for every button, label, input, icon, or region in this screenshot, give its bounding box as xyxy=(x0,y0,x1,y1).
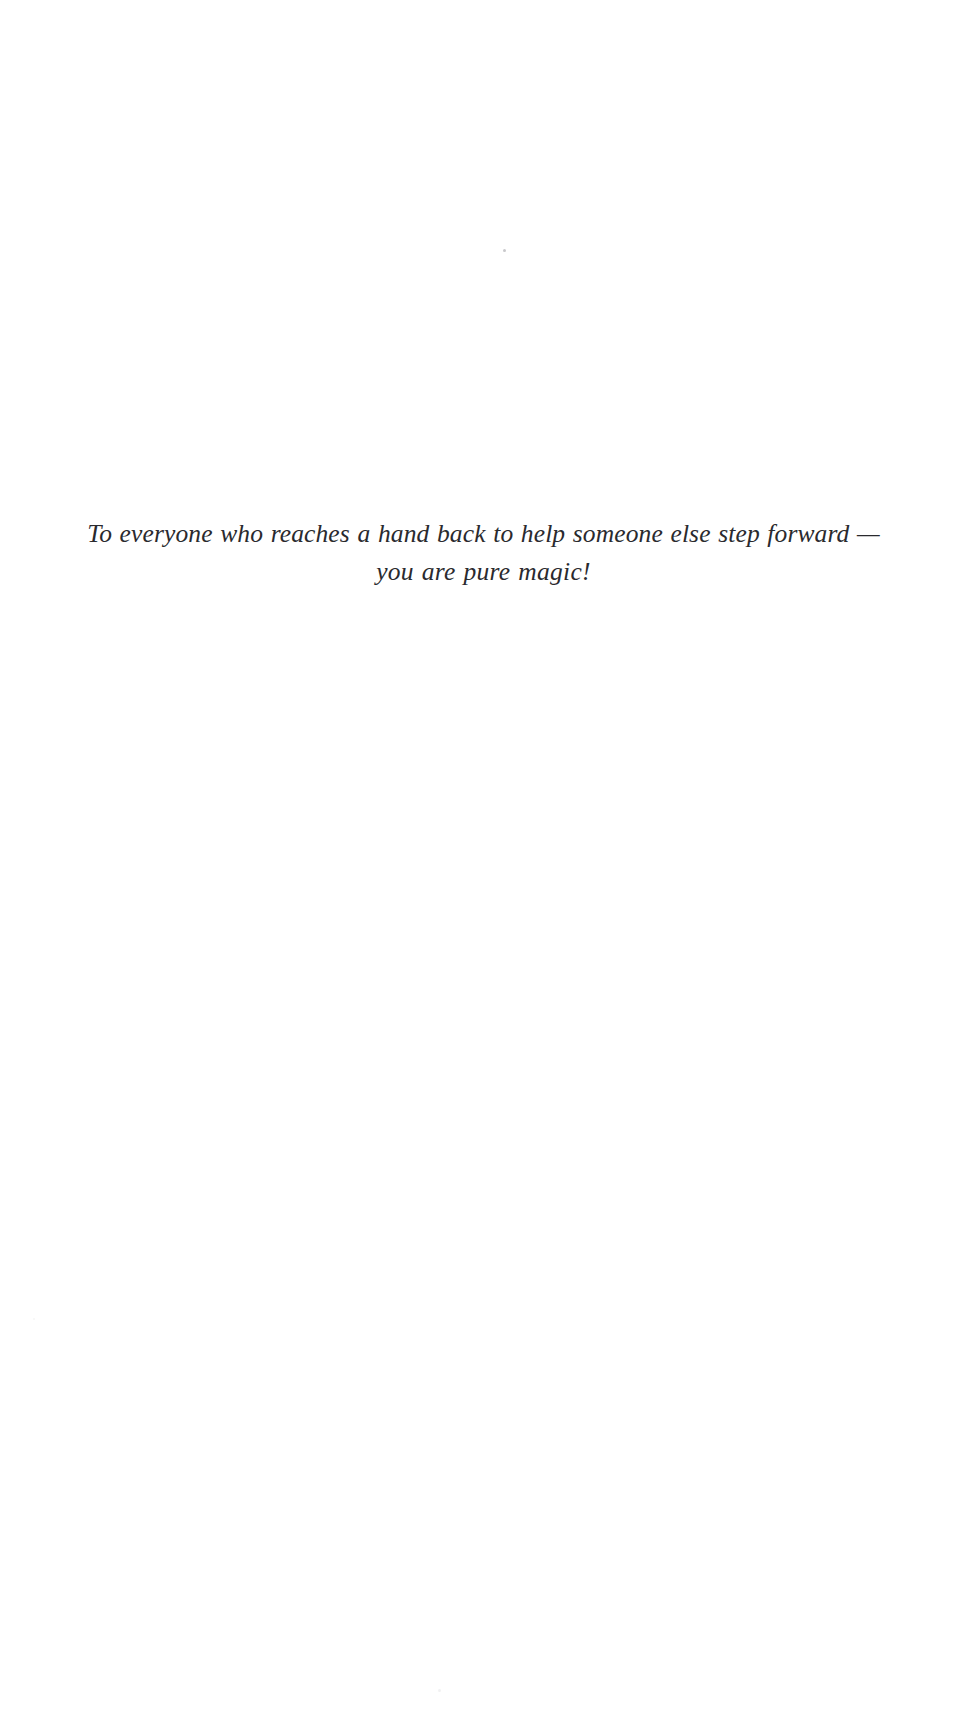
dedication-line-1: To everyone who reaches a hand back to h… xyxy=(55,515,912,553)
scan-speck-icon xyxy=(503,249,506,252)
dedication-line-2: you are pure magic! xyxy=(55,553,912,591)
page-sheet: To everyone who reaches a hand back to h… xyxy=(0,0,967,1727)
scan-speck-icon xyxy=(33,1318,35,1320)
scan-speck-icon xyxy=(438,1689,441,1692)
dedication-text-block: To everyone who reaches a hand back to h… xyxy=(0,515,967,591)
